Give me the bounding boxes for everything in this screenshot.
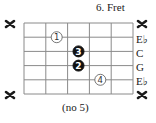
string-3-note-label: C xyxy=(136,47,154,59)
finger-number: 1 xyxy=(54,32,59,42)
mute-x-icon xyxy=(138,21,146,27)
finger-number: 4 xyxy=(98,75,103,85)
chord-footnote: (no 5) xyxy=(62,101,89,114)
mute-x-icon xyxy=(6,21,14,27)
mute-x-icon xyxy=(138,92,146,98)
finger-number: 3 xyxy=(75,47,81,57)
string-4-note-label: G xyxy=(136,61,154,73)
chord-diagram: 6. Fret 1324 E♭ C G E♭ (no 5) xyxy=(0,0,156,123)
mute-x-icon xyxy=(6,92,14,98)
string-2-note-label: E♭ xyxy=(136,33,154,45)
finger-number: 2 xyxy=(75,61,81,71)
string-5-note-label: E♭ xyxy=(136,75,154,87)
